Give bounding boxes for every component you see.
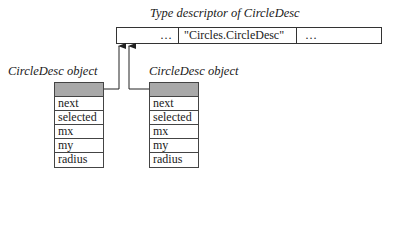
object-label-right: CircleDesc object — [149, 64, 238, 79]
type-tag-field — [55, 83, 103, 97]
field-radius: radius — [55, 153, 103, 167]
circle-object-right: next selected mx my radius — [149, 82, 199, 168]
field-mx: mx — [150, 125, 198, 139]
field-selected: selected — [55, 111, 103, 125]
field-mx: mx — [55, 125, 103, 139]
field-radius: radius — [150, 153, 198, 167]
circle-object-left: next selected mx my radius — [54, 82, 104, 168]
object-label-left: CircleDesc object — [8, 64, 97, 79]
field-selected: selected — [150, 111, 198, 125]
field-next: next — [150, 97, 198, 111]
type-tag-field — [150, 83, 198, 97]
field-next: next — [55, 97, 103, 111]
field-my: my — [55, 139, 103, 153]
field-my: my — [150, 139, 198, 153]
